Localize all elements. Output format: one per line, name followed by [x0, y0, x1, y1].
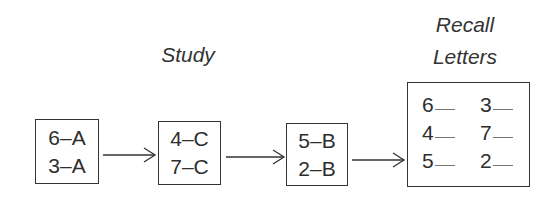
study-box-1: 6–A 3–A	[35, 119, 99, 184]
recall-box: 6 3 4 7 5 2	[407, 82, 530, 187]
recall-digit: 6	[422, 93, 434, 116]
answer-blank	[493, 109, 513, 110]
study-box-3: 5–B 2–B	[286, 123, 348, 186]
recall-cell: 2	[480, 148, 513, 174]
recall-digit: 5	[422, 149, 434, 172]
recall-label-line2: Letters	[420, 44, 510, 70]
pair: 6–A	[36, 125, 98, 151]
recall-letters-label: Recall Letters	[420, 12, 510, 70]
answer-blank	[435, 109, 455, 110]
recall-cell: 6	[422, 92, 455, 118]
pair: 4–C	[159, 126, 220, 152]
recall-digit: 7	[480, 121, 492, 144]
recall-cell: 3	[480, 92, 513, 118]
pair: 2–B	[287, 156, 347, 182]
recall-cell: 5	[422, 148, 455, 174]
study-box-2: 4–C 7–C	[158, 121, 221, 185]
pair: 5–B	[287, 128, 347, 154]
arrow-right-icon	[226, 147, 286, 167]
recall-cell: 4	[422, 120, 455, 146]
answer-blank	[493, 165, 513, 166]
arrow-right-icon	[352, 150, 406, 170]
arrow-right-icon	[103, 145, 157, 165]
answer-blank	[493, 137, 513, 138]
pair: 3–A	[36, 153, 98, 179]
recall-cell: 7	[480, 120, 513, 146]
study-label: Study	[148, 42, 228, 68]
recall-digit: 2	[480, 149, 492, 172]
recall-digit: 4	[422, 121, 434, 144]
recall-label-line1: Recall	[420, 12, 510, 38]
pair: 7–C	[159, 154, 220, 180]
answer-blank	[435, 137, 455, 138]
recall-digit: 3	[480, 93, 492, 116]
answer-blank	[435, 165, 455, 166]
